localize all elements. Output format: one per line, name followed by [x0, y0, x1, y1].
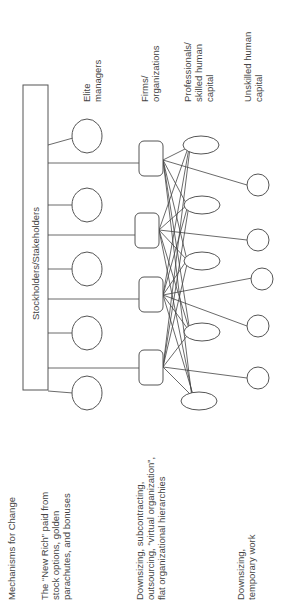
firm-professional-mesh [159, 148, 194, 398]
elite-connectors [48, 138, 73, 393]
level-labels: Elitemanagers Firms/organizations Profes… [81, 32, 264, 102]
mechanisms-title: Mechanisms for Change [6, 497, 17, 600]
mechanism-firms: Downsizing, subcontracting,outsourcing, … [134, 457, 167, 600]
firm-nodes [135, 141, 163, 385]
label-elite-managers: Elitemanagers [81, 60, 103, 102]
label-professionals: Professionals/skilled humancapital [182, 42, 215, 102]
label-unskilled: Unskilled humancapital [242, 32, 264, 102]
mechanism-labels: Mechanisms for Change The “New Rich” pai… [6, 457, 257, 600]
mechanism-unskilled: Downsizing,temporary work [235, 534, 257, 600]
mechanism-elite: The “New Rich” paid fromstock options, g… [39, 492, 72, 600]
stakeholder-label: Stockholders/Stakeholders [30, 207, 41, 320]
label-firms: Firms/organizations [139, 45, 161, 102]
unskilled-nodes [247, 174, 273, 389]
stakeholder-diagram: Stockholders/Stakeholders [0, 0, 282, 603]
